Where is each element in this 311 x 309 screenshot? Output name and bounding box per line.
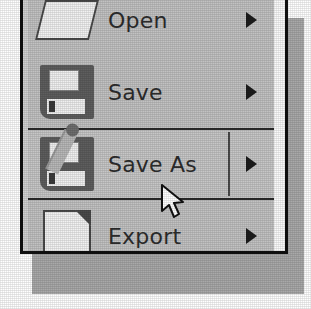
menu-item-export-label: Export	[106, 224, 228, 249]
folder-open-icon	[40, 0, 94, 40]
menu-item-export[interactable]: Export	[28, 200, 274, 254]
menu-item-export-icon-cell	[28, 200, 106, 254]
floppy-disk-pencil-icon	[40, 137, 94, 191]
menu-item-save-label: Save	[106, 80, 228, 105]
floppy-disk-icon	[40, 65, 94, 119]
menu-item-save-as-submenu-arrow[interactable]	[228, 128, 274, 200]
menu-item-open-icon-cell	[28, 0, 106, 56]
menu-item-save-submenu-arrow[interactable]	[228, 56, 274, 128]
scanned-figure: Open Save	[0, 0, 311, 309]
document-page-icon	[43, 210, 91, 254]
menu-item-open-submenu-arrow[interactable]	[228, 0, 274, 56]
menu-item-open[interactable]: Open	[28, 0, 274, 56]
menu-item-save-as-icon-cell	[28, 128, 106, 200]
menu-item-export-submenu-arrow[interactable]	[228, 200, 274, 254]
right-triangle-icon	[246, 12, 257, 28]
right-triangle-icon	[246, 228, 257, 244]
cascading-menu-window: Open Save	[20, 0, 288, 254]
right-triangle-icon	[246, 156, 257, 172]
menu-item-save-icon-cell	[28, 56, 106, 128]
menu-item-save-as-label: Save As	[106, 152, 228, 177]
menu-item-list: Open Save	[28, 0, 274, 251]
right-triangle-icon	[246, 84, 257, 100]
menu-item-save-as[interactable]: Save As	[28, 128, 274, 200]
menu-item-save[interactable]: Save	[28, 56, 274, 128]
menu-item-open-label: Open	[106, 8, 228, 33]
